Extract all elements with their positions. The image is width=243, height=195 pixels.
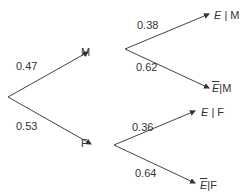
prob-ebar-given-m: 0.62 — [136, 61, 157, 73]
branch-root-m — [8, 52, 88, 97]
prob-e-given-m: 0.38 — [137, 19, 158, 31]
prob-m: 0.47 — [16, 60, 37, 72]
prob-ebar-given-f: 0.64 — [135, 167, 156, 179]
outcome-ebar-given-f: E|F — [200, 179, 217, 191]
prob-f: 0.53 — [16, 120, 37, 132]
outcome-e-given-f: E | F — [201, 106, 224, 118]
outcome-e-given-m: E | M — [214, 9, 240, 21]
prob-e-given-f: 0.36 — [132, 121, 153, 133]
outcome-ebar-given-m: E|M — [212, 82, 231, 94]
node-m: M — [81, 46, 90, 58]
branch-f-e — [114, 111, 195, 145]
node-f: F — [81, 137, 88, 149]
tree-lines — [0, 0, 243, 195]
